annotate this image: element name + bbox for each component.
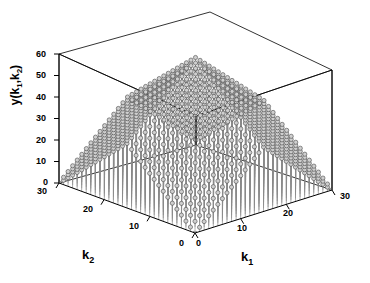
xtick-label-10: 10 (237, 224, 247, 233)
ytick-label-0: 0 (179, 239, 184, 248)
ztick-label-60: 60 (36, 50, 46, 59)
plot-canvas (0, 0, 370, 283)
ytick-10 (147, 216, 150, 221)
axis-title-y-a: y(k (8, 88, 22, 105)
xtick-30 (332, 190, 335, 195)
ytick-0 (192, 233, 195, 238)
axis-title-k1-sub: 1 (248, 257, 253, 267)
xtick-label-20: 20 (283, 209, 293, 218)
xtick-label-0: 0 (196, 239, 201, 248)
axis-title-k1: k1 (241, 250, 253, 267)
ytick-30 (56, 183, 59, 188)
axis-title-k2-sub: 2 (89, 255, 94, 265)
ytick-label-10: 10 (129, 222, 139, 231)
xtick-label-30: 30 (340, 192, 350, 201)
axis-title-y-c: ) (8, 65, 22, 69)
ytick-20 (101, 200, 104, 205)
ytick-label-30: 30 (37, 187, 47, 196)
axis-title-y-sub1: 1 (15, 83, 24, 87)
ztick-label-50: 50 (36, 71, 46, 80)
axis-title-y-b: ,k (8, 73, 22, 83)
ztick-label-20: 20 (36, 136, 46, 145)
axis-title-k2: k2 (82, 248, 94, 265)
ytick-label-20: 20 (83, 205, 93, 214)
ztick-label-10: 10 (36, 157, 46, 166)
ztick-label-40: 40 (36, 93, 46, 102)
figure-3d-stem-plot: 60 50 40 30 20 10 0 30 20 10 0 0 10 20 3… (0, 0, 370, 283)
ztick-label-30: 30 (36, 114, 46, 123)
axis-title-y-sub2: 2 (15, 69, 24, 73)
